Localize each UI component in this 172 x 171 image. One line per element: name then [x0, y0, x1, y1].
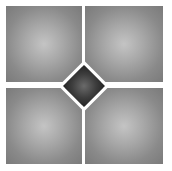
diamond-inset [59, 61, 110, 112]
center-inset [58, 60, 112, 114]
